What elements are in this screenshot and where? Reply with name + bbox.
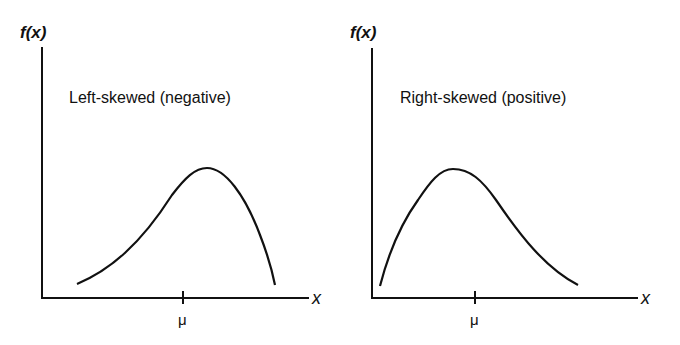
x-axis-label: x bbox=[311, 288, 322, 308]
density-curve bbox=[77, 168, 275, 285]
x-axis-label: x bbox=[640, 288, 651, 308]
left-skewed-panel: f(x) x μ Left-skewed (negative) bbox=[20, 23, 322, 328]
panel-title: Left-skewed (negative) bbox=[69, 89, 231, 106]
y-axis-label: f(x) bbox=[20, 23, 47, 42]
skewness-diagram: f(x) x μ Left-skewed (negative) f(x) x μ… bbox=[0, 0, 680, 345]
y-axis-label: f(x) bbox=[350, 23, 377, 42]
mean-label: μ bbox=[178, 311, 187, 328]
density-curve bbox=[380, 169, 578, 286]
right-skewed-panel: f(x) x μ Right-skewed (positive) bbox=[350, 23, 651, 328]
panel-title: Right-skewed (positive) bbox=[400, 89, 566, 106]
mean-label: μ bbox=[470, 311, 479, 328]
